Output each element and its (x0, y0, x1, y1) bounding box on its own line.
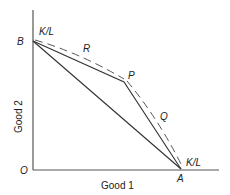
point-p-label: P (128, 70, 135, 81)
point-b-label: B (17, 36, 24, 47)
y-axis-label: Good 2 (13, 100, 24, 133)
curve-r (35, 40, 124, 79)
b-ratio-label: K/L (39, 26, 54, 37)
x-axis-label: Good 1 (101, 180, 134, 191)
curve-q-label: Q (160, 111, 168, 122)
origin-label: O (20, 165, 28, 176)
curve-q (127, 81, 182, 166)
point-a-label: A (176, 173, 184, 184)
production-possibility-diagram: B K/L R P Q K/L A O Good 1 Good 2 (0, 0, 230, 195)
line-b-a (33, 41, 181, 169)
a-ratio-label: K/L (186, 157, 201, 168)
curve-r-label: R (83, 43, 90, 54)
